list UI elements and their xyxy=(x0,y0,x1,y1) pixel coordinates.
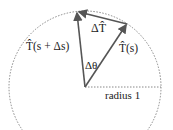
radius-label: radius 1 xyxy=(105,89,140,101)
delta-theta-label: Δθ xyxy=(85,59,97,71)
delta-t-label: ΔT̂ xyxy=(91,21,107,35)
tangent-vector-s-plus-ds xyxy=(77,13,85,87)
t-s-plus-ds-label: T̂(s + Δs) xyxy=(26,39,69,53)
t-s-label: T̂(s) xyxy=(119,41,138,55)
unit-circle-diagram: ΔT̂ T̂(s + Δs) T̂(s) Δθ radius 1 xyxy=(0,0,173,130)
